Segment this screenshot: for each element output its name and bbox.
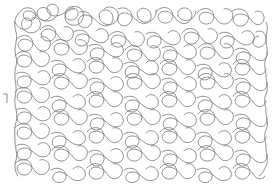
stipple-pattern-drawing [0, 0, 279, 195]
drawing-background [0, 0, 279, 195]
stipple-pattern-canvas [0, 0, 279, 195]
